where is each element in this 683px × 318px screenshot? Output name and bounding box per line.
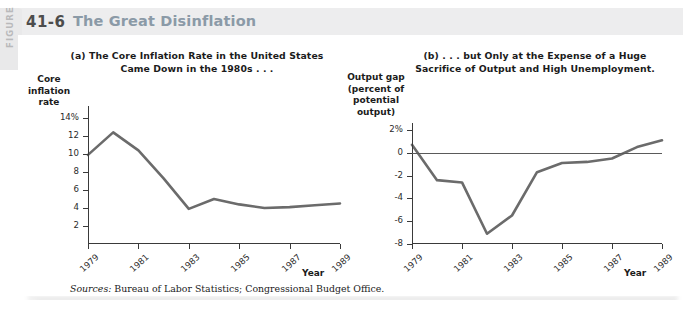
sources-keyword: Sources: [70, 283, 111, 294]
panel-b-title-line1: (b) . . . but Only at the Expense of a H… [423, 50, 646, 61]
x-tick-mark [612, 244, 613, 249]
y-tick-mark [407, 153, 412, 154]
panel-a-ylabel-line3: rate [39, 97, 60, 107]
x-tick-mark [662, 244, 663, 249]
y-tick-mark [83, 208, 88, 209]
panel-b-title: (b) . . . but Only at the Expense of a H… [390, 50, 680, 75]
panel-b-ylabel-line1: Output gap [347, 72, 405, 82]
sources-note: Sources: Bureau of Labor Statistics; Con… [70, 283, 384, 294]
y-tick-label: 2% [363, 124, 403, 134]
y-tick-mark [407, 198, 412, 199]
y-tick-label: 14% [39, 112, 79, 122]
panel-b-x-axis-title: Year [624, 268, 646, 278]
x-tick-mark [88, 244, 89, 249]
sources-text: Bureau of Labor Statistics; Congressiona… [111, 283, 384, 294]
panel-a-title-line1: (a) The Core Inflation Rate in the Unite… [71, 50, 324, 61]
panel-a-data-line [88, 132, 340, 209]
x-tick-mark [562, 244, 563, 249]
panel-b-ylabel-line3: potential [353, 95, 399, 105]
panel-a-chart: 14%12108642 197919811983198519871989 [88, 118, 340, 244]
y-tick-label: 6 [39, 184, 79, 194]
y-tick-mark [83, 190, 88, 191]
y-tick-label: -2 [363, 170, 403, 180]
figure-number: 41-6 [26, 13, 66, 31]
x-tick-mark [189, 244, 190, 249]
y-tick-mark [407, 130, 412, 131]
panel-b-title-line2: Sacrifice of Output and High Unemploymen… [415, 63, 655, 74]
panel-a-y-axis [88, 106, 89, 244]
y-tick-label: 2 [39, 220, 79, 230]
x-tick-mark [239, 244, 240, 249]
y-tick-label: 0 [363, 147, 403, 157]
panel-a-title: (a) The Core Inflation Rate in the Unite… [50, 50, 344, 75]
panel-a-x-axis [88, 243, 340, 244]
panel-b-zero-line [412, 153, 662, 154]
figure-card: FIGURE 41-6 The Great Disinflation (a) T… [0, 0, 683, 300]
panel-b-data-line [412, 140, 662, 233]
y-tick-mark [83, 172, 88, 173]
figure-tab-label: FIGURE [5, 0, 15, 57]
y-tick-mark [83, 154, 88, 155]
y-tick-label: -8 [363, 238, 403, 248]
panel-a-ylabel-line2: inflation [28, 86, 70, 96]
panel-b-y-axis [412, 123, 413, 244]
y-tick-mark [83, 226, 88, 227]
y-tick-label: 10 [39, 148, 79, 158]
panel-b-plot-area [412, 130, 662, 244]
x-tick-mark [412, 244, 413, 249]
y-tick-mark [83, 136, 88, 137]
y-tick-label: -4 [363, 192, 403, 202]
y-tick-label: 12 [39, 130, 79, 140]
y-tick-mark [83, 118, 88, 119]
x-tick-mark [512, 244, 513, 249]
panel-b-ylabel-line2: (percent of [348, 84, 404, 94]
x-tick-mark [138, 244, 139, 249]
panel-a-x-axis-title: Year [302, 268, 324, 278]
panel-b-x-axis [412, 243, 662, 244]
panel-b-chart: 2%0-2-4-6-8 197919811983198519871989 [412, 130, 662, 244]
x-tick-mark [290, 244, 291, 249]
panel-a-title-line2: Came Down in the 1980s . . . [120, 63, 273, 74]
x-tick-mark [462, 244, 463, 249]
panel-b-y-axis-title: Output gap (percent of potential output) [340, 72, 412, 118]
panel-a-y-axis-title: Core inflation rate [18, 74, 80, 109]
y-tick-label: -6 [363, 215, 403, 225]
y-tick-label: 8 [39, 166, 79, 176]
page-title: The Great Disinflation [73, 13, 256, 29]
y-tick-mark [407, 176, 412, 177]
panel-a-plot-area [88, 118, 340, 244]
y-tick-mark [407, 221, 412, 222]
panel-b-ylabel-line4: output) [357, 107, 395, 117]
y-tick-label: 4 [39, 202, 79, 212]
panel-a-ylabel-line1: Core [37, 74, 60, 84]
x-tick-mark [340, 244, 341, 249]
